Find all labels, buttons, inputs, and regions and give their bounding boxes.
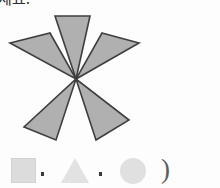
triangle-shape-icon [61, 158, 89, 183]
triangle-lower-right [76, 79, 129, 140]
header-text: 세요. [0, 0, 30, 7]
pinwheel-svg [6, 13, 146, 148]
triangle-lower-left [24, 79, 76, 140]
circle-shape-icon [120, 158, 146, 184]
header-text-clip: 세요. [0, 0, 60, 13]
options-row: ) [0, 155, 220, 188]
comma-separator-icon [41, 172, 44, 176]
page-canvas: 세요. ) [0, 0, 220, 188]
square-shape-icon [11, 158, 36, 183]
comma-separator-icon [99, 172, 102, 176]
pinwheel-figure [6, 13, 146, 148]
close-paren-text: ) [161, 156, 170, 183]
